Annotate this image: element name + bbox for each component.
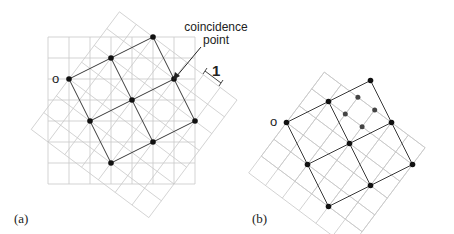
panel-a: o coincidence point 1 (a) bbox=[14, 12, 248, 226]
lattice-point bbox=[150, 139, 156, 145]
panel-b: o (b) bbox=[249, 72, 425, 234]
origin-label: o bbox=[52, 71, 59, 86]
csl-diagram: o coincidence point 1 (a) o (b) bbox=[0, 0, 454, 234]
lattice-point bbox=[372, 107, 377, 112]
lattice-point bbox=[347, 141, 353, 147]
arrow-icon bbox=[173, 47, 201, 80]
rotated-grid-secondary bbox=[261, 72, 425, 232]
lattice-point bbox=[410, 162, 416, 168]
grid-line bbox=[44, 113, 162, 201]
lattice-point bbox=[355, 95, 360, 100]
lattice-point bbox=[368, 183, 374, 189]
grid-line bbox=[82, 50, 170, 168]
rotated-grid bbox=[249, 72, 425, 234]
panel-label-b: (b) bbox=[252, 211, 267, 226]
lattice-point bbox=[284, 120, 290, 126]
lattice-point bbox=[108, 160, 114, 166]
grid-line bbox=[31, 12, 119, 130]
lattice-point bbox=[305, 162, 311, 168]
lattice-point bbox=[66, 76, 72, 82]
square-grid bbox=[48, 37, 195, 184]
lattice-point bbox=[150, 34, 156, 40]
panel-label-a: (a) bbox=[14, 211, 28, 226]
lattice-point bbox=[326, 99, 332, 105]
lattice-point bbox=[360, 124, 365, 129]
inner-points bbox=[343, 95, 377, 129]
lattice-point bbox=[368, 78, 374, 84]
lattice-point bbox=[87, 118, 93, 124]
annotation-line1: coincidence bbox=[184, 20, 248, 34]
scale-label: 1 bbox=[212, 62, 220, 79]
lattice-point bbox=[108, 55, 114, 61]
origin-label: o bbox=[270, 114, 277, 129]
lattice-point bbox=[192, 118, 198, 124]
lattice-point bbox=[326, 204, 332, 210]
lattice-point bbox=[129, 97, 135, 103]
coincidence-points bbox=[284, 78, 416, 210]
grid-line bbox=[82, 62, 200, 150]
lattice-point bbox=[389, 120, 395, 126]
lattice-point bbox=[343, 112, 348, 117]
annotation-line2: point bbox=[203, 33, 230, 47]
